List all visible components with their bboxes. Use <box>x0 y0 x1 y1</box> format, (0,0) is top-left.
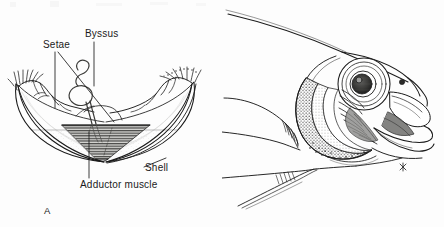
label-setae: Setae <box>43 40 70 50</box>
label-adductor-muscle: Adductor muscle <box>80 180 157 190</box>
figure-container: Setae Byssus Shell Adductor muscle A <box>0 0 444 227</box>
label-byssus: Byssus <box>85 29 118 39</box>
label-shell: Shell <box>145 163 168 173</box>
asterisk-mark <box>400 163 406 171</box>
fish-head-illustration <box>222 0 444 227</box>
panel-b: B <box>222 0 444 227</box>
panel-letter-a: A <box>44 205 51 216</box>
nostril-mark <box>399 79 404 84</box>
panel-a: Setae Byssus Shell Adductor muscle A <box>0 0 222 227</box>
